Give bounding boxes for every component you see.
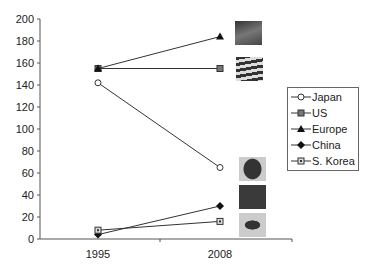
- legend-item-china: China: [290, 137, 341, 153]
- series-line-china: [98, 206, 220, 235]
- us-flag-icon: [236, 57, 263, 81]
- y-tick-label: 120: [16, 101, 34, 113]
- japan-flag-icon: [239, 157, 266, 181]
- chart-legend: Japan US Europe China S. Korea: [287, 87, 359, 171]
- legend-item-europe: Europe: [290, 121, 347, 137]
- south-korea-flag-icon: [239, 213, 266, 237]
- legend-item-us: US: [290, 105, 327, 121]
- eu-flag-icon: [235, 21, 262, 45]
- x-tick-label: 2008: [208, 248, 232, 260]
- china-flag-icon: [239, 185, 266, 209]
- y-tick-label: 140: [16, 79, 34, 91]
- x-tick-label: 1995: [86, 248, 110, 260]
- y-tick-label: 40: [22, 189, 34, 201]
- series-line-europe: [98, 37, 220, 69]
- y-tick-label: 160: [16, 57, 34, 69]
- boxed-square-marker-icon: [290, 156, 312, 166]
- series-line-s-korea: [98, 221, 220, 230]
- legend-item-s-korea: S. Korea: [290, 153, 355, 169]
- open-circle-marker-icon: [290, 92, 312, 102]
- y-tick-label: 180: [16, 35, 34, 47]
- y-tick-label: 0: [28, 233, 34, 245]
- y-tick-label: 200: [16, 13, 34, 25]
- series-line-japan: [98, 83, 220, 168]
- chart-container: 02040608010012014016018020019952008 Japa…: [0, 0, 367, 273]
- triangle-marker-icon: [290, 124, 312, 134]
- legend-item-japan: Japan: [290, 89, 342, 105]
- y-tick-label: 100: [16, 123, 34, 135]
- square-marker-icon: [290, 108, 312, 118]
- y-tick-label: 20: [22, 211, 34, 223]
- y-tick-label: 80: [22, 145, 34, 157]
- diamond-marker-icon: [290, 140, 312, 150]
- y-tick-label: 60: [22, 167, 34, 179]
